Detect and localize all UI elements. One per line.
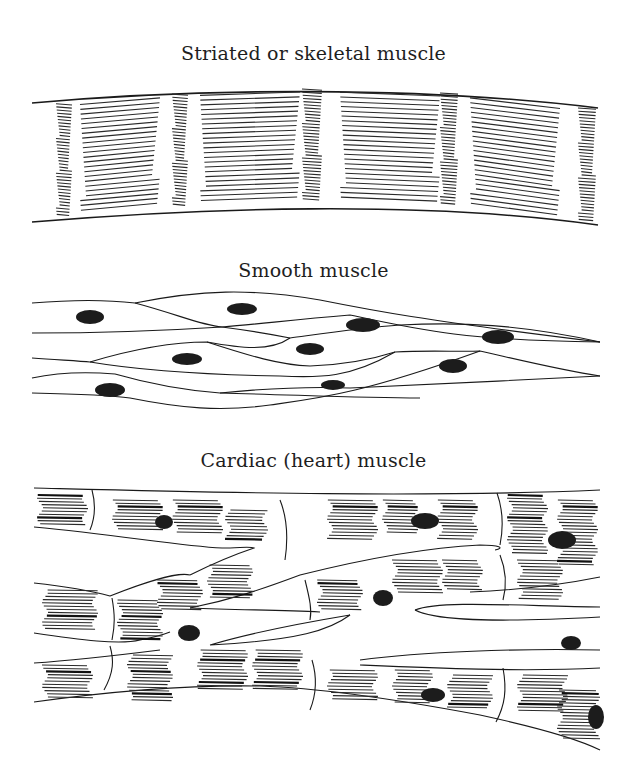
skeletal-light-band-line (340, 97, 439, 101)
skeletal-dark-band-line (59, 132, 70, 133)
skeletal-dark-band-line (172, 163, 188, 164)
skeletal-light-band-line (204, 154, 293, 157)
skeletal-light-band-line (346, 178, 439, 182)
skeletal-dark-band-line (305, 183, 320, 184)
cardiac-cell-nucleus (548, 531, 576, 549)
skeletal-light-band-line (205, 173, 299, 176)
skeletal-dark-band-line (440, 131, 455, 132)
cardiac-striation-line (258, 653, 303, 654)
skeletal-dark-band-line (441, 137, 455, 138)
cardiac-striation-line (518, 579, 558, 580)
cardiac-striation-line (202, 679, 247, 680)
skeletal-dark-band-line (172, 97, 187, 98)
cardiac-striation-line (114, 522, 159, 523)
skeletal-dark-band-line (578, 213, 594, 214)
cardiac-cell-nucleus (421, 688, 445, 702)
cardiac-striation-line (330, 670, 375, 671)
cardiac-striation-line (523, 592, 563, 593)
cardiac-striation-line (557, 728, 594, 729)
skeletal-dark-band-line (579, 219, 593, 220)
skeletal-dark-band-line (303, 98, 321, 99)
skeletal-light-band-line (201, 106, 299, 109)
skeletal-light-band-line (340, 188, 438, 192)
skeletal-dark-band-line (58, 120, 71, 121)
skeletal-dark-band-line (59, 129, 71, 130)
skeletal-dark-band-line (582, 140, 594, 141)
cardiac-striation-line (173, 500, 218, 501)
skeletal-dark-band-line (443, 121, 456, 122)
skeletal-light-band-line (471, 117, 558, 128)
skeletal-light-band-line (342, 126, 436, 130)
cardiac-striation-line (562, 735, 599, 736)
skeletal-dark-band-line (305, 152, 318, 153)
skeletal-dark-band-line (580, 162, 592, 163)
cardiac-fiber-edge (34, 527, 254, 575)
cardiac-striation-line (202, 672, 247, 673)
cardiac-striation-line (320, 586, 360, 587)
cardiac-striation-line (559, 703, 596, 704)
skeletal-dark-band-line (59, 126, 71, 127)
cardiac-striation-line (331, 680, 376, 681)
cardiac-striation-line (199, 669, 244, 670)
cardiac-striation-line (333, 696, 378, 697)
cardiac-striation-line (511, 546, 546, 547)
cardiac-striation-line (47, 616, 97, 617)
cardiac-striation-line (333, 676, 378, 677)
cardiac-striation-line (318, 583, 358, 584)
cardiac-striation-line (203, 653, 248, 654)
skeletal-dark-band-line (57, 110, 72, 111)
skeletal-dark-band-line (305, 114, 321, 115)
cardiac-striation-line (384, 522, 414, 523)
cardiac-striation-line (229, 532, 266, 533)
cardiac-striation-line (197, 685, 242, 686)
cardiac-striation-line (47, 678, 92, 679)
cardiac-striation-line (200, 660, 245, 661)
skeletal-dark-band-line (56, 104, 72, 105)
cardiac-striation-line (395, 670, 430, 671)
cardiac-striation-line (37, 498, 82, 499)
cardiac-striation-line (438, 516, 473, 517)
cardiac-striation-line (558, 516, 593, 517)
cardiac-striation-line (227, 536, 264, 537)
cardiac-striation-line (438, 500, 473, 501)
cardiac-striation-line (255, 660, 300, 661)
skeletal-dark-band-line (174, 113, 187, 114)
cardiac-striation-line (392, 560, 437, 561)
skeletal-dark-band-line (581, 133, 595, 134)
cardiac-striation-line (393, 683, 428, 684)
cardiac-striation-line (157, 602, 197, 603)
cardiac-striation-line (443, 563, 478, 564)
skeletal-dark-band-line (303, 167, 321, 168)
skeletal-dark-band-line (56, 173, 72, 174)
cardiac-striation-line (442, 560, 477, 561)
cardiac-striation-line (328, 683, 373, 684)
skeletal-dark-band-line (59, 167, 68, 168)
skeletal-dark-band-line (441, 106, 457, 107)
skeletal-light-band-line (476, 184, 559, 195)
cardiac-striation-line (322, 590, 362, 591)
intercalated-disc (500, 555, 505, 600)
cardiac-striation-line (128, 684, 168, 685)
skeletal-dark-band-line (578, 178, 596, 179)
cardiac-striation-line (201, 650, 246, 651)
skeletal-dark-band-line (440, 200, 455, 201)
skeletal-dark-band-line (580, 124, 595, 125)
skeletal-dark-band-line (174, 179, 187, 180)
intercalated-disc (104, 646, 112, 690)
cardiac-striation-line (519, 598, 559, 599)
cardiac-striation-line (42, 687, 87, 688)
cardiac-striation-line (517, 688, 562, 689)
cardiac-striation-line (509, 543, 544, 544)
cardiac-striation-line (447, 707, 487, 708)
skeletal-dark-band-line (303, 95, 322, 96)
cardiac-striation-line (43, 508, 88, 509)
skeletal-light-band-line (473, 136, 557, 147)
cardiac-striation-line (230, 526, 267, 527)
cardiac-striation-line (563, 529, 598, 530)
cardiac-striation-line (118, 510, 163, 511)
cardiac-striation-line (385, 513, 415, 514)
skeletal-dark-band-line (579, 121, 595, 122)
skeletal-dark-band-line (56, 176, 71, 177)
cardiac-striation-line (508, 521, 543, 522)
skeletal-dark-band-line (305, 180, 321, 181)
